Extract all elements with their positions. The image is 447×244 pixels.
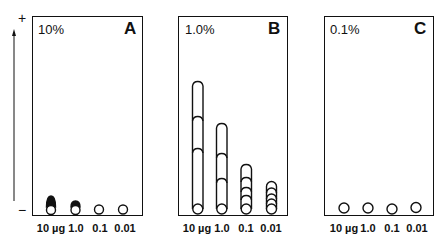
electrophoresis-figure: + − 10% A 1.0% B 0.1% C [0, 0, 447, 244]
panel-a-lanes [47, 196, 128, 215]
gel-spots [0, 0, 447, 244]
panel-b-lanes [193, 81, 277, 214]
panel-b-lane-label: 1.0 [214, 222, 229, 234]
panel-a-lane-label: 10 µg [37, 222, 65, 234]
panel-b-lane-label: 10 µg [183, 222, 211, 234]
panel-c-lane-label: 0.1 [384, 222, 399, 234]
panel-a-lane-label: 0.01 [114, 222, 135, 234]
panel-c-lane-label: 1.0 [360, 222, 375, 234]
panel-c-lanes [339, 203, 421, 215]
panel-c-lane-label: 10 µg [330, 222, 358, 234]
panel-b-lane-label: 0.01 [260, 222, 281, 234]
panel-b-lane-label: 0.1 [238, 222, 253, 234]
panel-a-lane-label: 1.0 [68, 222, 83, 234]
panel-a-lane-label: 0.1 [92, 222, 107, 234]
panel-c-lane-label: 0.01 [406, 222, 427, 234]
